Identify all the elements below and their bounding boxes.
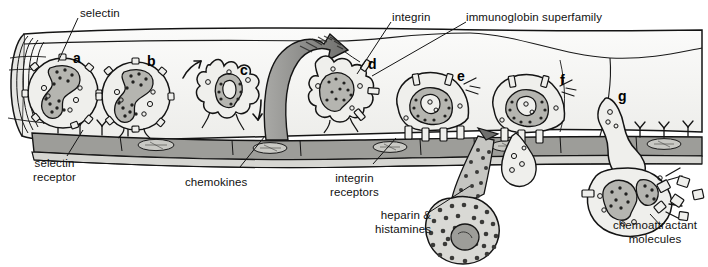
stage-letter-d: d xyxy=(368,56,377,72)
callout-integrin: integrin xyxy=(392,11,431,25)
callout-selectin: selectin xyxy=(80,7,120,21)
figure-canvas: selectin integrin immunoglobin superfami… xyxy=(0,0,708,267)
stage-letter-b: b xyxy=(147,53,156,69)
diagram-artwork xyxy=(0,0,708,267)
callout-integrin-receptors: integrin receptors xyxy=(330,172,379,199)
endothelium xyxy=(32,133,702,168)
callout-selectin-receptor: selectin receptor xyxy=(33,157,76,184)
callout-chemokines: chemokines xyxy=(185,176,247,190)
leukocyte-a xyxy=(22,54,102,129)
callout-immunoglobin-superfamily: immunoglobin superfamily xyxy=(466,11,602,25)
callout-heparin-histamines: heparin & histamines xyxy=(359,209,431,236)
callout-chemoattractant-molecules: chemoattractant molecules xyxy=(613,219,697,246)
stage-letter-c: c xyxy=(240,62,248,78)
stage-letter-g: g xyxy=(618,88,627,104)
stage-letter-e: e xyxy=(457,68,465,84)
stage-letter-f: f xyxy=(560,72,565,88)
stage-letter-a: a xyxy=(73,50,81,66)
